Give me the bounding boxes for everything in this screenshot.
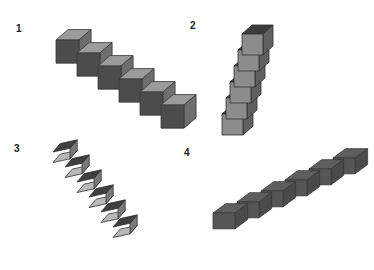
cube-face <box>161 105 184 128</box>
cube-face <box>119 79 142 102</box>
cube-face <box>140 92 163 115</box>
cube-assembly-2 <box>187 0 374 135</box>
cube <box>213 204 248 229</box>
cube-face <box>242 34 263 55</box>
cube-face <box>98 66 121 89</box>
cube-figure-panel-3 <box>0 135 187 270</box>
cube-figure-panel-4 <box>187 135 374 270</box>
cube-face <box>56 40 79 63</box>
cube-face <box>77 53 100 76</box>
panel-label-1: 1 <box>16 24 22 34</box>
cube-figure-panel-2 <box>187 0 374 135</box>
panel-label-2: 2 <box>190 21 196 31</box>
panel-label-3: 3 <box>14 144 20 154</box>
cube-assembly-3 <box>0 135 187 270</box>
panel-label-4: 4 <box>184 148 190 158</box>
cube-assembly-4 <box>187 135 374 270</box>
cube-assembly-1 <box>0 0 187 135</box>
cube <box>242 25 273 55</box>
cube-figure-panel-1 <box>0 0 187 135</box>
cube-face <box>213 213 235 229</box>
figure-canvas: 1234 <box>0 0 374 270</box>
